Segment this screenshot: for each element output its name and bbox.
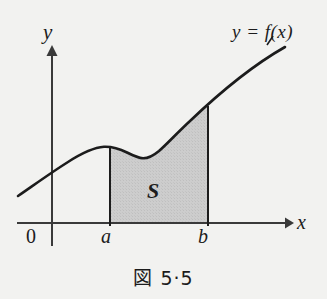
x-axis-arrowhead [285, 218, 294, 229]
area-label-s: S [147, 180, 159, 202]
origin-label: 0 [26, 226, 36, 246]
function-equation-label: y = f(x) [232, 22, 293, 41]
figure-container: y x 0 a b S y = f(x) 図 5·5 [0, 0, 327, 299]
y-axis-label: y [43, 22, 52, 43]
y-axis [47, 45, 58, 246]
lower-bound-label-a: a [101, 226, 111, 246]
y-axis-arrowhead [47, 45, 58, 56]
upper-bound-label-b: b [198, 226, 208, 246]
shaded-area-s [110, 68, 248, 223]
figure-graphic [0, 0, 327, 299]
x-axis-label: x [297, 212, 306, 232]
figure-caption: 図 5·5 [0, 263, 327, 290]
